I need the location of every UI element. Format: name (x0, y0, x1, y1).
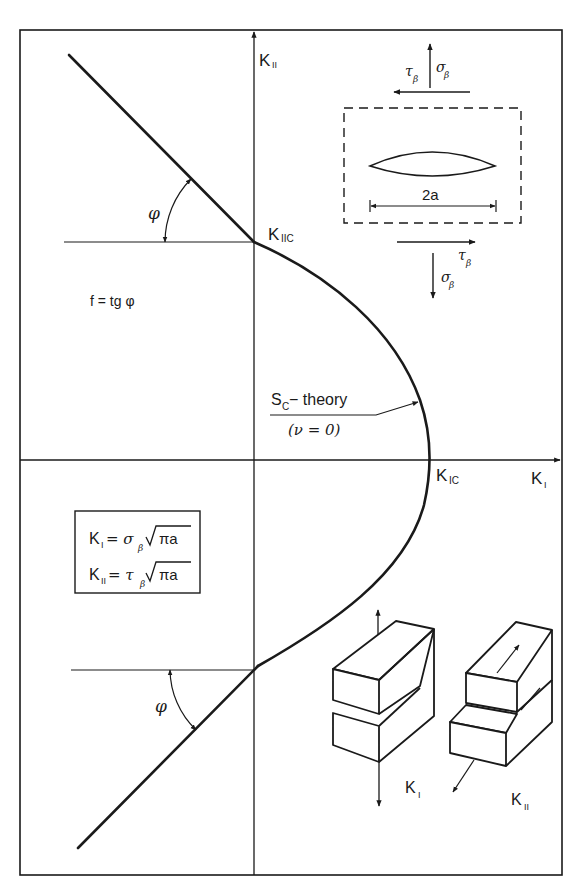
phi-label-lower: φ (155, 696, 167, 716)
k1-sub: I (101, 540, 104, 550)
k1-lhs: K (89, 530, 100, 547)
y-axis-label: K II (259, 51, 277, 70)
kic-main: K (436, 466, 448, 485)
sigma-top-beta: β (443, 70, 449, 80)
k1-beta: β (137, 543, 143, 553)
friction-formula: f = tg φ (90, 293, 135, 309)
crack-length-label: 2a (422, 186, 439, 203)
mode-1-specimen: K I (333, 610, 434, 806)
phi-label-upper: φ (148, 203, 160, 223)
tau-bottom: τ (458, 247, 466, 263)
theory-s: S (271, 391, 282, 408)
k2-lhs: K (89, 566, 100, 583)
x-axis-label: K I (531, 469, 547, 490)
k1-radicand: πa (159, 530, 178, 547)
upper-angle-phi: φ (148, 179, 191, 242)
kiic-sub: IIC (281, 233, 294, 244)
mode-2-label-main: K (511, 791, 522, 808)
kic-sub: IC (449, 475, 459, 486)
mode-1-label-sub: I (418, 790, 421, 800)
crack-loading-inset: σ β τ β 2a τ β σ β (344, 44, 521, 298)
k1-eq: = σ (106, 530, 134, 548)
k2-radicand: πa (159, 566, 178, 583)
tau-top-beta: β (412, 74, 418, 84)
crack-shape (370, 152, 495, 176)
kic-label: K IC (436, 466, 459, 486)
mode-2-label-sub: II (524, 802, 529, 812)
mode-1-label-main: K (405, 779, 416, 796)
tau-bottom-beta: β (465, 258, 471, 268)
lower-angle-phi: φ (155, 670, 196, 730)
y-axis-label-main: K (259, 51, 271, 70)
theory-text: − theory (289, 391, 347, 408)
k2-sub: II (101, 576, 106, 586)
kiic-main: K (268, 225, 280, 244)
y-axis-label-sub: II (272, 60, 277, 70)
k2-beta: β (139, 579, 145, 589)
theory-nu: (ν = 0) (288, 421, 341, 439)
mixed-mode-fracture-diagram: φ φ f = tg φ K II K I K IIC K IC S C − t… (0, 0, 584, 890)
x-axis-label-sub: I (544, 480, 547, 490)
k2-eq: = τ (108, 566, 134, 584)
mode-2-specimen: K II (450, 622, 552, 812)
x-axis-label-main: K (531, 469, 543, 488)
kiic-label: K IIC (268, 225, 294, 244)
sigma-bottom-beta: β (448, 280, 454, 290)
sc-theory-callout: S C − theory (ν = 0) (270, 391, 418, 439)
tau-top: τ (405, 63, 413, 79)
stress-intensity-formulas: K I = σ β πa K II = τ β πa (75, 511, 200, 593)
